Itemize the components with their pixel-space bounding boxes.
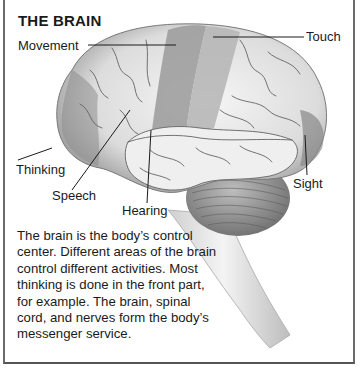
label-touch: Touch xyxy=(306,29,341,44)
label-speech: Speech xyxy=(52,188,96,203)
label-thinking: Thinking xyxy=(16,162,65,177)
label-movement: Movement xyxy=(18,38,79,53)
caption-text: The brain is the body’s control center. … xyxy=(17,228,217,343)
diagram-title: THE BRAIN xyxy=(18,12,101,29)
label-sight: Sight xyxy=(293,176,323,191)
label-hearing: Hearing xyxy=(122,203,168,218)
pointer-thinking xyxy=(18,148,52,160)
